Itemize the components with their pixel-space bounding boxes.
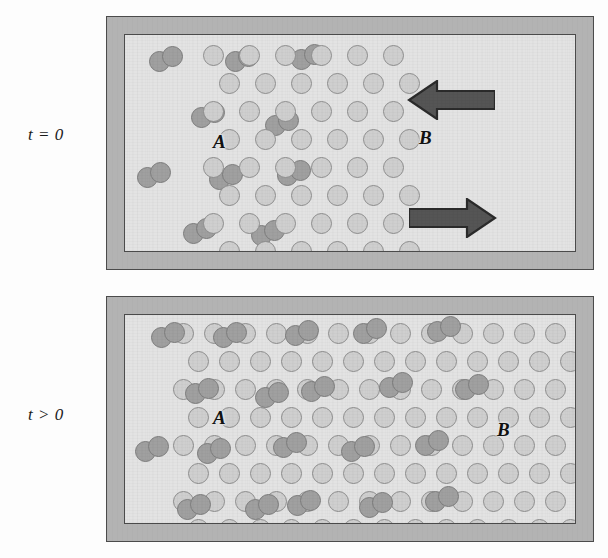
species-b-atom	[545, 323, 566, 344]
species-b-atom	[374, 519, 395, 524]
species-a-atom	[226, 322, 247, 343]
species-b-atom	[203, 45, 224, 66]
species-b-atom	[291, 129, 312, 150]
species-b-atom	[363, 73, 384, 94]
species-b-atom	[363, 185, 384, 206]
arrow-right-icon	[409, 198, 497, 238]
species-b-atom	[483, 491, 504, 512]
species-b-atom	[312, 519, 333, 524]
species-b-atom	[188, 407, 209, 428]
species-b-atom	[514, 491, 535, 512]
species-b-atom	[239, 157, 260, 178]
species-b-atom	[291, 73, 312, 94]
species-b-atom	[311, 101, 332, 122]
species-a-atom	[148, 436, 169, 457]
species-b-atom	[405, 519, 426, 524]
species-a-atom	[258, 494, 279, 515]
species-b-atom	[399, 129, 420, 150]
species-b-atom	[347, 213, 368, 234]
species-b-atom	[383, 157, 404, 178]
species-b-atom	[275, 213, 296, 234]
species-b-atom	[467, 407, 488, 428]
species-b-atom	[374, 407, 395, 428]
species-b-atom	[498, 463, 519, 484]
species-b-atom	[327, 241, 348, 252]
species-b-atom	[545, 491, 566, 512]
species-b-atom	[328, 323, 349, 344]
species-b-atom	[498, 519, 519, 524]
species-b-atom	[405, 463, 426, 484]
time-label-initial: t = 0	[28, 125, 64, 145]
species-a-atom	[372, 492, 393, 513]
species-b-atom	[383, 101, 404, 122]
species-b-atom	[514, 435, 535, 456]
species-b-atom	[235, 379, 256, 400]
species-b-atom	[467, 519, 488, 524]
species-b-atom	[421, 379, 442, 400]
species-b-atom	[452, 435, 473, 456]
species-b-atom	[311, 157, 332, 178]
species-b-atom	[560, 519, 576, 524]
species-b-atom	[327, 73, 348, 94]
species-b-atom	[219, 241, 240, 252]
species-b-atom	[343, 351, 364, 372]
species-b-atom	[529, 351, 550, 372]
species-b-atom	[255, 129, 276, 150]
species-b-atom	[281, 463, 302, 484]
species-b-atom	[281, 407, 302, 428]
species-a-atom	[164, 322, 185, 343]
species-b-atom	[343, 407, 364, 428]
species-b-atom	[347, 45, 368, 66]
species-b-atom	[255, 73, 276, 94]
species-b-atom	[436, 407, 457, 428]
species-b-atom	[383, 45, 404, 66]
species-b-atom	[347, 157, 368, 178]
species-b-atom	[275, 45, 296, 66]
species-b-atom	[235, 435, 256, 456]
species-b-atom	[291, 241, 312, 252]
species-b-atom	[328, 491, 349, 512]
species-b-atom	[188, 463, 209, 484]
species-b-atom	[311, 213, 332, 234]
species-b-atom	[359, 379, 380, 400]
species-b-label-later: B	[497, 419, 510, 441]
species-b-atom	[529, 407, 550, 428]
species-b-atom	[399, 241, 420, 252]
species-a-atom	[392, 372, 413, 393]
species-a-atom	[150, 162, 171, 183]
chamber-later: A B	[124, 314, 576, 524]
diffusion-figure: t = 0 t > 0 A B	[0, 0, 608, 558]
species-b-atom	[239, 213, 260, 234]
species-b-atom	[250, 463, 271, 484]
species-b-atom	[188, 351, 209, 372]
species-b-atom	[390, 435, 411, 456]
species-a-label-later: A	[213, 407, 226, 429]
species-a-atom	[440, 316, 461, 337]
species-b-atom	[203, 213, 224, 234]
species-b-atom	[219, 519, 240, 524]
species-b-atom	[250, 407, 271, 428]
species-b-atom	[363, 129, 384, 150]
species-b-atom	[343, 463, 364, 484]
species-b-atom	[529, 519, 550, 524]
species-b-atom	[529, 463, 550, 484]
time-label-later: t > 0	[28, 405, 64, 425]
species-b-atom	[483, 323, 504, 344]
species-a-atom	[190, 494, 211, 515]
species-b-atom	[467, 463, 488, 484]
species-a-atom	[210, 438, 231, 459]
species-b-atom	[188, 519, 209, 524]
species-b-atom	[347, 101, 368, 122]
species-b-atom	[239, 101, 260, 122]
species-b-atom	[203, 157, 224, 178]
chamber-initial: A B	[124, 34, 576, 252]
species-a-atom	[300, 490, 321, 511]
species-b-atom	[545, 379, 566, 400]
vessel-initial: A B	[106, 16, 594, 270]
species-b-atom	[311, 45, 332, 66]
species-b-atom	[498, 351, 519, 372]
species-b-atom	[255, 185, 276, 206]
species-b-atom	[363, 241, 384, 252]
species-a-atom	[298, 320, 319, 341]
species-b-atom	[312, 351, 333, 372]
